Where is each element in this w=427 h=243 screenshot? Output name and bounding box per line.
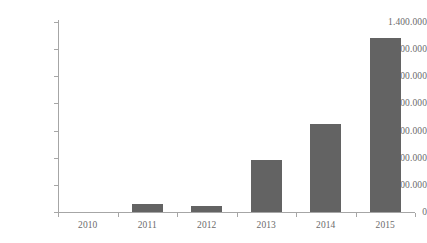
x-axis-tick-label: 2015 (376, 220, 395, 230)
x-axis-tick-mark (296, 213, 297, 217)
x-axis-tick-label: 2010 (78, 220, 97, 230)
bar-2015 (370, 38, 401, 212)
plot-area (58, 22, 415, 212)
bar-chart: 0200.000400.000600.000800.0001.000.0001.… (0, 0, 427, 243)
x-axis-tick-label: 2011 (138, 220, 157, 230)
bar-2011 (132, 204, 163, 212)
x-axis-tick-mark (237, 213, 238, 217)
bar-2013 (251, 160, 282, 212)
x-axis-tick-mark (118, 213, 119, 217)
x-axis-tick-mark (177, 213, 178, 217)
bar-2014 (310, 124, 341, 212)
x-axis-tick-label: 2014 (316, 220, 335, 230)
x-axis-tick-mark (415, 213, 416, 217)
bar-2012 (191, 206, 222, 212)
x-axis-tick-mark (356, 213, 357, 217)
x-axis-tick-label: 2013 (257, 220, 276, 230)
x-axis-tick-label: 2012 (197, 220, 216, 230)
x-axis-tick-mark (58, 213, 59, 217)
